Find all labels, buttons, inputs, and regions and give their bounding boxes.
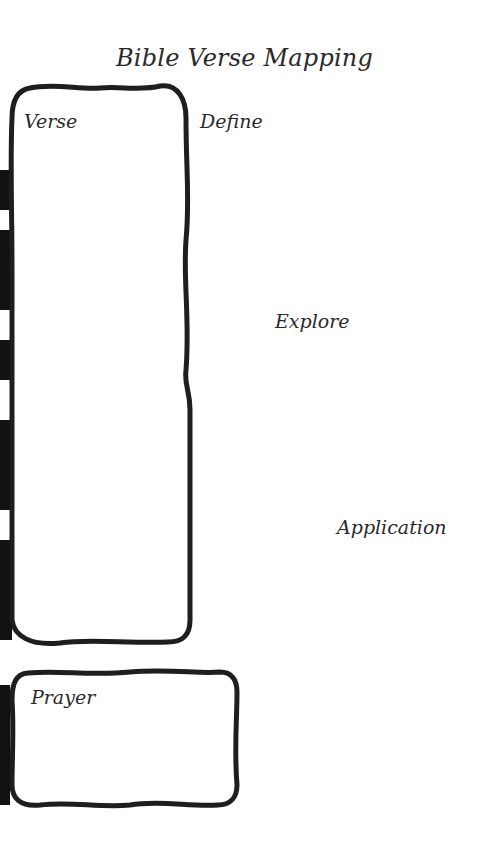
prayer-label: Prayer bbox=[31, 686, 95, 708]
prayer-writing-area[interactable] bbox=[18, 715, 232, 800]
explore-label: Explore bbox=[275, 310, 350, 332]
explore-writing-area[interactable] bbox=[198, 340, 468, 505]
verse-writing-area[interactable] bbox=[18, 140, 182, 635]
verse-label: Verse bbox=[24, 110, 77, 132]
verse-mapping-page: Bible Verse Mapping Verse Define Explore… bbox=[0, 0, 483, 854]
application-writing-area[interactable] bbox=[198, 546, 468, 646]
define-writing-area[interactable] bbox=[198, 140, 468, 300]
page-title: Bible Verse Mapping bbox=[116, 44, 373, 72]
define-label: Define bbox=[200, 110, 263, 132]
application-label: Application bbox=[337, 516, 447, 538]
